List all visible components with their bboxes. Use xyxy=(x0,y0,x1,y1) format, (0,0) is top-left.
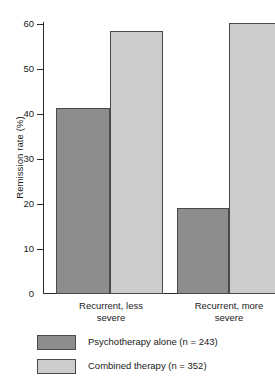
plot-area: Remission rate (%) 60 50 40 30 20 xyxy=(0,0,275,310)
legend-item-combined-therapy: Combined therapy (n = 352) xyxy=(0,356,275,380)
x-category-label-less-severe-line1: Recurrent, less xyxy=(50,300,172,312)
y-tick-label-30: 30 xyxy=(0,154,34,164)
x-category-label-less-severe-line2: severe xyxy=(50,312,172,324)
bar-chart-figure: Remission rate (%) 60 50 40 30 20 xyxy=(0,0,275,380)
y-tick-label-20: 20 xyxy=(0,199,34,209)
y-tick-label-60: 60 xyxy=(0,19,34,29)
bar-psychotherapy-alone-more-severe xyxy=(177,208,229,294)
y-tick-label-10: 10 xyxy=(0,244,34,254)
x-category-label-more-severe-line2: severe xyxy=(168,312,275,324)
legend-label-psychotherapy-alone: Psychotherapy alone (n = 243) xyxy=(88,336,218,348)
x-category-label-more-severe: Recurrent, more severe xyxy=(168,300,275,323)
y-tick-mark-20 xyxy=(37,204,44,205)
y-tick-mark-10 xyxy=(37,249,44,250)
bar-combined-therapy-less-severe xyxy=(110,31,163,294)
x-category-label-less-severe: Recurrent, less severe xyxy=(50,300,172,323)
legend-swatch-combined-therapy xyxy=(37,359,76,374)
y-tick-label-40: 40 xyxy=(0,109,34,119)
x-category-label-more-severe-line1: Recurrent, more xyxy=(168,300,275,312)
y-tick-mark-30 xyxy=(37,159,44,160)
y-tick-label-50: 50 xyxy=(0,64,34,74)
legend-label-combined-therapy: Combined therapy (n = 352) xyxy=(88,360,207,372)
y-tick-mark-60 xyxy=(37,24,44,25)
bar-psychotherapy-alone-less-severe xyxy=(56,108,110,294)
legend-swatch-psychotherapy-alone xyxy=(37,335,76,350)
chart-legend: Psychotherapy alone (n = 243) Combined t… xyxy=(0,332,275,380)
y-tick-label-0: 0 xyxy=(0,289,34,299)
y-tick-mark-50 xyxy=(37,69,44,70)
legend-item-psychotherapy-alone: Psychotherapy alone (n = 243) xyxy=(0,332,275,356)
bar-combined-therapy-more-severe xyxy=(229,23,275,294)
y-tick-mark-40 xyxy=(37,114,44,115)
